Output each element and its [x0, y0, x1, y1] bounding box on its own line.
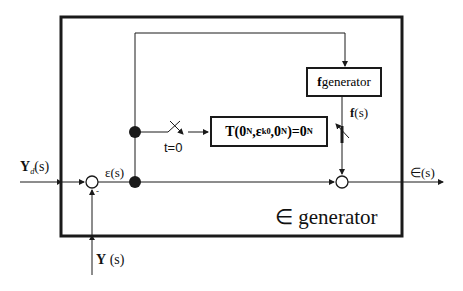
error-label: ε(s): [105, 166, 124, 179]
f-generator-block: f generator: [306, 67, 382, 97]
switch-time-label: t=0: [164, 141, 182, 154]
output-label: ∈(s): [410, 166, 435, 179]
feedback-y-label: Y (s): [96, 253, 124, 267]
t-block: T(0N,εk0,0N)=0N: [210, 116, 328, 147]
t-zero: 0: [239, 124, 246, 140]
t-zero: 0: [274, 124, 281, 140]
minus-sign: -: [96, 187, 99, 196]
switch-blade: [168, 121, 180, 132]
f-signal-label: f(s): [350, 106, 368, 119]
summing-junction-2: [336, 176, 348, 188]
t-zero: 0: [300, 124, 307, 140]
branch-dot-lower: [129, 176, 141, 188]
t-eq: )=: [287, 124, 300, 140]
t-sub: N: [307, 127, 313, 136]
t-label: T(: [225, 124, 239, 140]
input-yd-label: Yd(s): [20, 160, 49, 176]
f-generator-label: generator: [322, 74, 371, 90]
outer-block-label: ∈ generator: [275, 207, 378, 228]
